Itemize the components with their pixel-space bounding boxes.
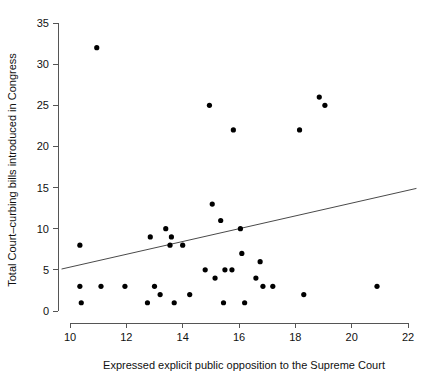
data-point — [221, 300, 226, 305]
data-point — [218, 218, 223, 223]
data-point — [270, 284, 275, 289]
data-point — [187, 292, 192, 297]
y-tick-label: 20 — [37, 140, 49, 152]
x-tick-label: 20 — [346, 331, 358, 343]
y-tick-label: 0 — [43, 305, 49, 317]
data-point — [317, 94, 322, 99]
data-point — [203, 267, 208, 272]
y-tick-label: 5 — [43, 264, 49, 276]
data-point — [260, 284, 265, 289]
data-point — [238, 226, 243, 231]
data-point — [374, 284, 379, 289]
data-point — [148, 234, 153, 239]
data-point-group — [77, 45, 379, 305]
data-point — [152, 284, 157, 289]
y-tick-label: 25 — [37, 99, 49, 111]
x-axis: 10121416182022 — [64, 323, 414, 343]
x-tick-label: 16 — [233, 331, 245, 343]
x-tick-label: 12 — [120, 331, 132, 343]
data-point — [258, 259, 263, 264]
data-point — [207, 103, 212, 108]
y-tick-label: 10 — [37, 223, 49, 235]
data-point — [231, 127, 236, 132]
data-point — [77, 243, 82, 248]
x-tick-label: 14 — [177, 331, 189, 343]
data-point — [79, 300, 84, 305]
y-tick-label: 30 — [37, 58, 49, 70]
x-tick-label: 18 — [289, 331, 301, 343]
data-point — [253, 275, 258, 280]
data-point — [180, 243, 185, 248]
data-point — [210, 201, 215, 206]
x-tick-label: 22 — [402, 331, 414, 343]
data-point — [167, 243, 172, 248]
x-tick-label: 10 — [64, 331, 76, 343]
data-point — [169, 234, 174, 239]
data-point — [229, 267, 234, 272]
data-point — [94, 45, 99, 50]
plot-canvas: 05101520253035 10121416182022 Expressed … — [0, 0, 428, 376]
data-point — [239, 251, 244, 256]
y-axis: 05101520253035 — [37, 17, 58, 317]
data-point — [301, 292, 306, 297]
data-point — [163, 226, 168, 231]
data-point — [172, 300, 177, 305]
data-point — [242, 300, 247, 305]
data-point — [98, 284, 103, 289]
x-axis-title: Expressed explicit public opposition to … — [103, 359, 385, 371]
x-tick-group: 10121416182022 — [64, 323, 414, 343]
data-point — [158, 292, 163, 297]
data-point — [77, 284, 82, 289]
scatter-plot-figure: 05101520253035 10121416182022 Expressed … — [0, 0, 428, 376]
data-point — [122, 284, 127, 289]
data-point — [145, 300, 150, 305]
data-point — [222, 267, 227, 272]
y-tick-label: 35 — [37, 17, 49, 29]
y-tick-group: 05101520253035 — [37, 17, 58, 317]
data-point — [212, 275, 217, 280]
data-point — [297, 127, 302, 132]
data-point — [322, 103, 327, 108]
y-tick-label: 15 — [37, 182, 49, 194]
y-axis-title: Total Court–curbing bills introduced in … — [6, 53, 18, 287]
